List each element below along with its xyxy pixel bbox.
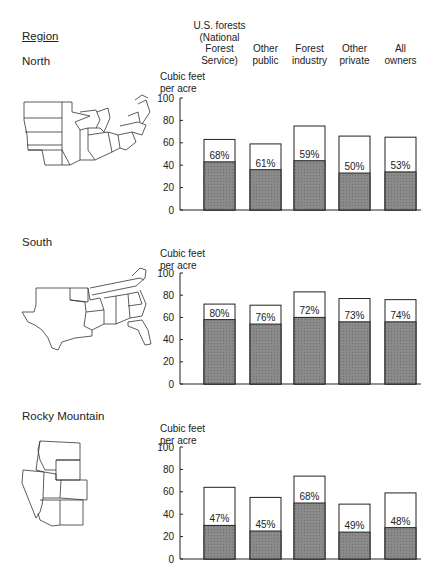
- y-tick-label: 60: [163, 312, 175, 323]
- y-tick-label: 60: [163, 486, 175, 497]
- bar-percent-label: 50%: [344, 161, 364, 172]
- y-tick-label: 80: [163, 464, 175, 475]
- y-tick-label: 20: [163, 356, 175, 367]
- y-tick-label: 40: [163, 160, 175, 171]
- y-tick-label: 40: [163, 334, 175, 345]
- region-map-north: [24, 95, 150, 165]
- bar-percent-label: 68%: [209, 150, 229, 161]
- y-tick-label: 100: [157, 93, 174, 104]
- bar-percent-label: 74%: [390, 310, 410, 321]
- bar-percent-label: 47%: [209, 513, 229, 524]
- chart-panel-rocky-mountain: 02040608010047%45%68%49%48%: [22, 441, 421, 565]
- bar-percent-label: 53%: [390, 160, 410, 171]
- bar-percent-label: 80%: [209, 308, 229, 319]
- y-axis-label: Cubic feetper acre: [160, 248, 205, 271]
- bar-shaded: [204, 320, 235, 384]
- bar-shaded: [294, 503, 325, 559]
- region-map-rocky: [22, 441, 87, 526]
- bar-percent-label: 73%: [344, 310, 364, 321]
- bar-shaded: [339, 532, 370, 559]
- bar-shaded: [250, 170, 281, 210]
- y-tick-label: 0: [168, 379, 174, 390]
- bar-percent-label: 45%: [255, 519, 275, 530]
- bar-percent-label: 48%: [390, 516, 410, 527]
- y-axis-label: Cubic feetper acre: [160, 71, 205, 94]
- figure-canvas: 02040608010068%61%59%50%53% 020406080100…: [0, 0, 434, 570]
- bar-shaded: [250, 531, 281, 559]
- y-tick-label: 40: [163, 509, 175, 520]
- bar-shaded: [294, 317, 325, 384]
- region-map-south: [22, 268, 151, 350]
- y-tick-label: 0: [168, 205, 174, 216]
- y-tick-label: 60: [163, 137, 175, 148]
- y-tick-label: 0: [168, 554, 174, 565]
- region-name: North: [22, 55, 50, 67]
- y-axis-label: Cubic feetper acre: [160, 423, 205, 446]
- bar-shaded: [339, 173, 370, 210]
- chart-panel-north: 02040608010068%61%59%50%53%: [24, 93, 421, 216]
- bar-percent-label: 49%: [344, 520, 364, 531]
- bar-shaded: [339, 322, 370, 384]
- bar-shaded: [385, 172, 416, 210]
- bar-shaded: [204, 525, 235, 559]
- chart-panel-south: 02040608010080%76%72%73%74%: [22, 268, 421, 390]
- bar-percent-label: 72%: [299, 305, 319, 316]
- y-tick-label: 80: [163, 115, 175, 126]
- y-tick-label: 20: [163, 531, 175, 542]
- region-name: Rocky Mountain: [22, 410, 104, 422]
- bar-shaded: [294, 161, 325, 210]
- y-tick-label: 20: [163, 182, 175, 193]
- y-tick-label: 80: [163, 290, 175, 301]
- bar-percent-label: 61%: [255, 158, 275, 169]
- bar-percent-label: 68%: [299, 491, 319, 502]
- bar-shaded: [250, 324, 281, 384]
- bar-shaded: [385, 322, 416, 384]
- bar-percent-label: 76%: [255, 312, 275, 323]
- region-name: South: [22, 236, 52, 248]
- bar-percent-label: 59%: [299, 149, 319, 160]
- bar-shaded: [385, 528, 416, 559]
- bar-shaded: [204, 162, 235, 210]
